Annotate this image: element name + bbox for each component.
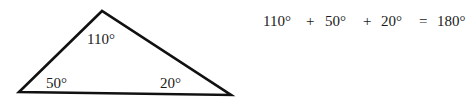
equation-plus-1: + [306, 14, 314, 29]
angle-label-left: 50° [46, 76, 67, 91]
equation-term-1: 110° [263, 14, 291, 29]
angle-label-right: 20° [160, 76, 181, 91]
angle-label-top: 110° [87, 32, 115, 47]
equation-result: 180° [437, 14, 466, 29]
equation-term-3: 20° [381, 14, 402, 29]
triangle-angle-sum-diagram: 110° 50° 20° 110° + 50° + 20° = 180° [0, 0, 467, 102]
equation-plus-2: + [363, 14, 371, 29]
equation-equals: = [419, 14, 427, 29]
equation-term-2: 50° [325, 14, 346, 29]
